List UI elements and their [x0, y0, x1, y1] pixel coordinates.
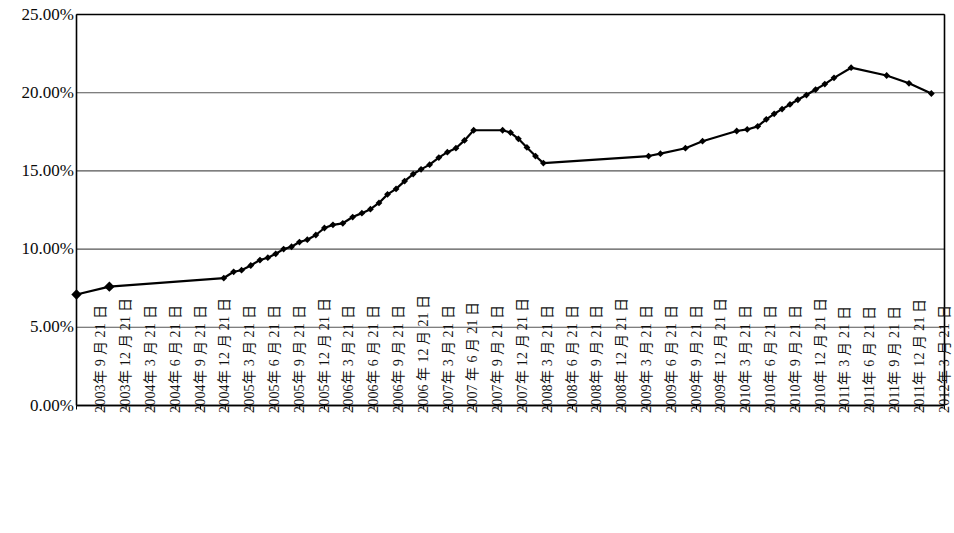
y-axis-tick-label: 5.00% — [2, 318, 74, 335]
chart-plot-area — [0, 0, 954, 533]
line-chart: 0.00%5.00%10.00%15.00%20.00%25.00% 2003年… — [0, 0, 954, 533]
chart-background — [0, 0, 954, 533]
y-axis-tick-label: 10.00% — [2, 240, 74, 257]
y-axis-tick-label: 20.00% — [2, 84, 74, 101]
y-axis-tick-label: 0.00% — [2, 397, 74, 414]
y-axis-tick-label: 25.00% — [2, 6, 74, 23]
y-axis-tick-label: 15.00% — [2, 162, 74, 179]
y-axis-labels: 0.00%5.00%10.00%15.00%20.00%25.00% — [0, 0, 74, 420]
